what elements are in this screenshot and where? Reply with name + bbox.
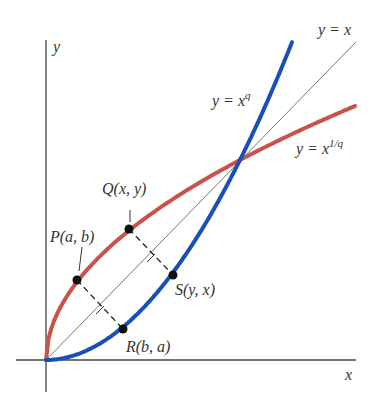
root-label: y = x1/q: [294, 137, 344, 158]
label-P: P(a, b): [49, 228, 94, 246]
label-R: R(b, a): [125, 338, 170, 356]
point-Q: [125, 225, 134, 234]
point-P: [73, 276, 82, 285]
label-Q: Q(x, y): [102, 180, 146, 198]
power-label: y = xq: [210, 89, 251, 110]
point-S: [169, 271, 178, 280]
leader-P: [79, 247, 82, 271]
identity-line: [46, 42, 356, 360]
reflection-diagram: y x y = x y = xq y = x1/q P(a, b) Q(x, y…: [0, 0, 377, 413]
identity-label: y = x: [316, 21, 351, 39]
x-axis-label: x: [344, 366, 352, 383]
label-S: S(y, x): [175, 281, 215, 299]
point-R: [119, 325, 128, 334]
y-axis-label: y: [51, 38, 61, 56]
